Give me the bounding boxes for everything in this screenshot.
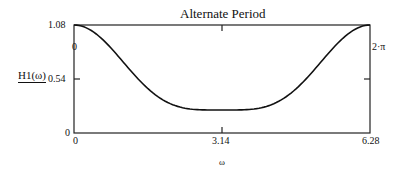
left-marker-label: 0 bbox=[72, 41, 77, 52]
plot-frame bbox=[74, 25, 370, 133]
x-axis-label: ω bbox=[219, 157, 225, 167]
series-line bbox=[74, 25, 370, 110]
x-tick-label-mid: 3.14 bbox=[212, 135, 230, 146]
y-tick-label-top: 1.08 bbox=[48, 19, 66, 30]
right-marker-label: 2·π bbox=[372, 41, 385, 52]
x-tick-label-left: 0 bbox=[73, 135, 78, 146]
y-tick-label-bottom: 0 bbox=[65, 127, 70, 138]
x-tick-label-right: 6.28 bbox=[362, 135, 380, 146]
y-tick-label-mid: 0.54 bbox=[48, 73, 66, 84]
y-axis-label: H1(ω) bbox=[18, 69, 46, 83]
